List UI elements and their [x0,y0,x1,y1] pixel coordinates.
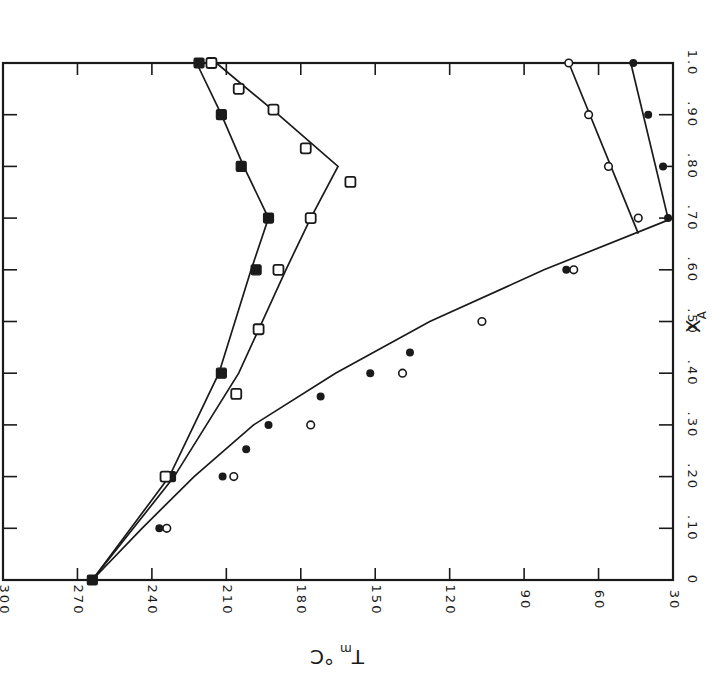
plot-frame [3,63,673,580]
xa-tick-label: 0 [685,575,700,585]
temperature-tick-label-group: 150 [369,585,384,616]
xa-tick-label-group: 1.0 [685,50,700,77]
curve-circle-liquidus-right-filled [631,63,668,218]
open-square-point [273,265,283,275]
temperature-tick-label: 240 [145,585,160,616]
open-circle-point [634,214,642,222]
temperature-tick-label-group: 60 [592,590,607,611]
filled-circle-point [629,59,637,67]
temperature-tick-label-group: 180 [294,585,309,616]
phase-diagram-chart: 0.10.20.30.40.50.60.70.80.901.0 30609012… [0,0,727,680]
open-circle-point [570,266,578,274]
filled-square-point [87,575,97,585]
open-square-point [231,389,241,399]
filled-circle-point [406,349,414,357]
filled-circle-point [366,369,374,377]
xa-tick-label: .40 [685,360,700,387]
open-circle-point [585,111,593,119]
filled-circle-point [562,266,570,274]
temperature-tick-label-group: 210 [220,585,235,616]
filled-circle-point [155,524,163,532]
xa-tick-label: .20 [685,463,700,490]
curve-open-square-curve [92,63,338,580]
filled-circle-point [317,392,325,400]
filled-circle-point [265,421,273,429]
temperature-tick-label: 210 [220,585,235,616]
xa-tick-label-group: .20 [685,463,700,490]
open-square-point [161,472,171,482]
open-circle-point [163,525,171,533]
open-circle-point [399,369,407,377]
fitted-curves [92,63,673,580]
filled-circle-point [664,214,672,222]
temperature-tick-label: 120 [443,585,458,616]
open-square-point [306,213,316,223]
open-circle-point [230,473,238,481]
curve-filled-square-curve [92,63,268,580]
filled-circle-point [219,473,227,481]
temperature-tick-label-group: 90 [518,590,533,611]
xa-tick-label: .30 [685,412,700,439]
temperature-tick-label: 30 [667,590,682,611]
filled-square-point [251,265,261,275]
xa-tick-label-group: .90 [685,101,700,128]
temperature-axis-ticks: 306090120150180210240270300 [0,63,682,615]
filled-square-point [264,213,274,223]
plot-border [3,63,673,580]
xa-tick-label: 1.0 [685,50,700,77]
xa-tick-label-group: .30 [685,412,700,439]
open-square-point [234,84,244,94]
temperature-tick-label: 180 [294,585,309,616]
filled-circle-point [242,445,250,453]
xa-tick-label-group: .10 [685,515,700,542]
xa-tick-label: .60 [685,256,700,283]
temperature-tick-label-group: 300 [0,585,12,616]
curve-circle-liquidus-right-open [569,63,639,234]
curve-circle-liquidus-left [92,218,673,580]
temperature-tick-label-group: 270 [71,585,86,616]
temperature-tick-label: 90 [518,590,533,611]
xa-tick-label-group: .60 [685,256,700,283]
xa-tick-label-group: .70 [685,205,700,232]
xa-tick-label-group: .40 [685,360,700,387]
temperature-tick-label-group: 240 [145,585,160,616]
temperature-tick-label: 60 [592,590,607,611]
open-circle-point [605,163,613,171]
filled-square-point [194,58,204,68]
open-square-point [301,143,311,153]
open-square-point [268,105,278,115]
data-markers [87,58,672,585]
open-square-point [345,177,355,187]
xa-tick-label-group: 0 [685,575,700,585]
xa-tick-label: .80 [685,153,700,180]
xa-tick-label-group: .80 [685,153,700,180]
xa-tick-label: .90 [685,101,700,128]
filled-square-point [216,368,226,378]
filled-circle-point [644,111,652,119]
open-circle-point [307,421,315,429]
temperature-tick-label: 150 [369,585,384,616]
xa-axis-ticks: 0.10.20.30.40.50.60.70.80.901.0 [3,50,700,585]
xa-tick-label: .70 [685,205,700,232]
temperature-tick-label-group: 120 [443,585,458,616]
filled-circle-point [659,162,667,170]
filled-square-point [236,161,246,171]
xa-tick-label: .10 [685,515,700,542]
temperature-tick-label: 270 [71,585,86,616]
temperature-tick-label-group: 30 [667,590,682,611]
temperature-tick-label: 300 [0,585,12,616]
open-square-point [254,324,264,334]
open-circle-point [478,318,486,326]
open-circle-point [565,59,573,67]
filled-square-point [216,110,226,120]
temperature-axis-title: Tm°C [310,642,365,669]
open-square-point [206,58,216,68]
